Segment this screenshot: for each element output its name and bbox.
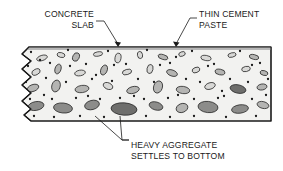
fine-aggregate-speck [103,116,105,118]
fine-aggregate-speck [49,62,51,64]
fine-aggregate-speck [251,98,253,100]
fine-aggregate-speck [146,49,148,51]
fine-aggregate-speck [30,51,32,53]
fine-aggregate-speck [137,78,139,80]
fine-aggregate-speck [213,63,215,65]
fine-aggregate-speck [87,95,89,97]
fine-aggregate-speck [113,64,115,66]
fine-aggregate-speck [167,97,169,99]
leader-thin-cement-paste [176,18,197,44]
fine-aggregate-speck [239,50,241,52]
fine-aggregate-speck [91,78,93,80]
fine-aggregate-speck [67,49,69,51]
fine-aggregate-speck [153,81,155,83]
fine-aggregate-speck [111,80,113,82]
fine-aggregate-speck [99,98,101,100]
fine-aggregate-speck [191,50,193,52]
fine-aggregate-speck [199,81,201,83]
fine-aggregate-speck [85,63,87,65]
fine-aggregate-speck [51,98,53,100]
label-thin-cement-paste-line1: THIN CEMENT [199,9,260,19]
fine-aggregate-speck [65,81,67,83]
fine-aggregate-speck [53,116,55,118]
leader-concrete-slab [96,21,118,44]
fine-aggregate-speck [143,98,145,100]
fine-aggregate-speck [27,65,29,67]
fine-aggregate-speck [133,95,135,97]
label-heavy-aggregate-line2: SETTLES TO BOTTOM [131,151,225,161]
arrowhead-thin-cement-paste [173,42,180,48]
label-concrete-slab-line2: SLAB [71,20,94,30]
fine-aggregate-speck [259,62,261,64]
fine-aggregate-speck [193,98,195,100]
label-heavy-aggregate-line1: HEAVY AGGREGATE [131,140,217,150]
fine-aggregate-speck [79,115,81,117]
fine-aggregate-speck [33,115,35,117]
fine-aggregate-speck [75,97,77,99]
fine-aggregate-speck [119,97,121,99]
fine-aggregate-speck [225,116,227,118]
fine-aggregate-speck [223,95,225,97]
fine-aggregate-speck [217,97,219,99]
fine-aggregate-speck [207,65,209,67]
fine-aggregate-speck [69,65,71,67]
fine-aggregate-speck [247,81,249,83]
arrowhead-concrete-slab [115,42,122,48]
fine-aggregate-speck [229,78,231,80]
label-thin-cement-paste-line2: PASTE [199,20,227,30]
fine-aggregate-speck [177,94,179,96]
fine-aggregate-speck [107,50,109,52]
fine-aggregate-speck [29,98,31,100]
concrete-slab-diagram: CONCRETESLABTHIN CEMENTPASTEHEAVY AGGREG… [0,0,283,171]
fine-aggregate-speck [145,115,147,117]
fine-aggregate-speck [185,78,187,80]
fine-aggregate-speck [221,90,223,92]
fine-aggregate-speck [265,94,267,96]
leader-arrowheads [115,42,180,48]
fine-aggregate-speck [45,77,47,79]
label-concrete-slab-line1: CONCRETE [45,9,95,19]
fine-aggregate-speck [125,63,127,65]
fine-aggregate-speck [169,62,171,64]
fine-aggregate-speck [251,64,253,66]
fine-aggregate-speck [175,56,177,58]
fine-aggregate-speck [267,78,269,80]
figure-canvas: CONCRETESLABTHIN CEMENTPASTEHEAVY AGGREG… [0,0,283,171]
fine-aggregate-speck [43,94,45,96]
fine-aggregate-speck [159,64,161,66]
fine-aggregate-speck [169,116,171,118]
fine-aggregate-speck [95,74,97,76]
fine-aggregate-speck [39,59,41,61]
fine-aggregate-speck [255,115,257,117]
fine-aggregate-speck [193,115,195,117]
